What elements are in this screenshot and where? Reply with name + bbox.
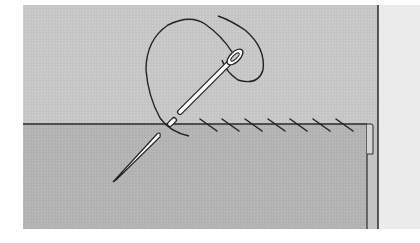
sewing-diagram <box>0 0 420 243</box>
hem-stitch-illustration <box>0 0 420 243</box>
fold-tab <box>367 124 373 154</box>
right-strip <box>378 5 420 229</box>
